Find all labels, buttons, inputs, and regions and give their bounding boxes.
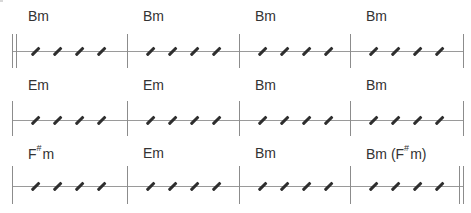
barline	[127, 101, 128, 136]
chord-root: Em	[143, 77, 164, 93]
chord-suffix: m	[43, 146, 55, 162]
chord-root: Em	[28, 77, 49, 93]
chord-root: Bm	[28, 8, 49, 24]
double-barline-end	[459, 166, 460, 204]
chord-root: F	[28, 146, 37, 162]
chord-symbol: Bm	[255, 8, 276, 24]
chord-root: Bm (F	[366, 146, 404, 162]
barline	[239, 101, 240, 136]
barline	[127, 34, 128, 68]
chord-symbol: Em	[143, 145, 164, 161]
double-barline-start	[16, 34, 17, 68]
chord-root: Em	[143, 145, 164, 161]
barline	[350, 166, 351, 204]
chord-root: Bm	[255, 145, 276, 161]
chord-symbol: Bm	[366, 77, 387, 93]
chord-symbol: Em	[28, 77, 49, 93]
barline	[463, 166, 464, 204]
sharp-sign: #	[404, 143, 409, 153]
chord-root: Bm	[255, 8, 276, 24]
chord-symbol: Bm (F#m)	[366, 145, 426, 162]
chord-root: Bm	[366, 77, 387, 93]
chord-root: Bm	[366, 8, 387, 24]
chord-chart: BmBmBmBmEmEmBmBmF#mEmBmBm (F#m)	[0, 0, 471, 213]
barline	[12, 101, 13, 136]
chord-symbol: Bm	[143, 8, 164, 24]
barline	[463, 34, 464, 68]
chord-suffix: m)	[410, 146, 426, 162]
corner-artifact	[0, 0, 3, 2]
chord-symbol: F#m	[28, 145, 54, 162]
barline	[239, 34, 240, 68]
barline	[12, 34, 13, 68]
barline	[350, 34, 351, 68]
barline	[127, 166, 128, 204]
barline	[12, 166, 13, 204]
barline	[463, 101, 464, 136]
barline	[350, 101, 351, 136]
chord-symbol: Bm	[366, 8, 387, 24]
chord-root: Bm	[255, 77, 276, 93]
chord-symbol: Bm	[28, 8, 49, 24]
chord-symbol: Em	[143, 77, 164, 93]
chord-root: Bm	[143, 8, 164, 24]
barline	[239, 166, 240, 204]
sharp-sign: #	[37, 143, 42, 153]
chord-symbol: Bm	[255, 145, 276, 161]
chord-symbol: Bm	[255, 77, 276, 93]
